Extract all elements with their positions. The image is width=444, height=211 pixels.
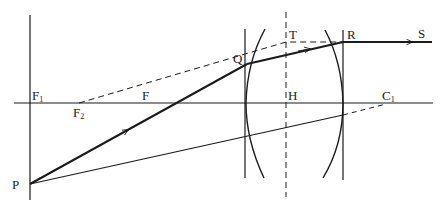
ray-p-c1-dashed [343, 104, 386, 115]
label-s: S [418, 26, 425, 41]
right-lens-curve [323, 30, 343, 178]
ray-p-c1-solid [30, 115, 343, 184]
optics-diagram: P F1 F2 F Q T H R S C1 [0, 0, 444, 211]
ray-q-r [247, 42, 343, 64]
label-q: Q [233, 51, 243, 66]
ray-p-q [30, 64, 247, 184]
label-c1: C1 [382, 88, 395, 104]
diagram-canvas: P F1 F2 F Q T H R S C1 [0, 0, 444, 211]
label-t: T [289, 27, 297, 42]
label-h: H [288, 88, 297, 103]
label-f: F [142, 88, 149, 103]
ray-p-q-arrow [115, 130, 128, 137]
label-f2: F2 [73, 105, 84, 121]
label-f1: F1 [32, 88, 43, 104]
label-r: R [347, 27, 356, 42]
label-p: P [12, 177, 19, 192]
